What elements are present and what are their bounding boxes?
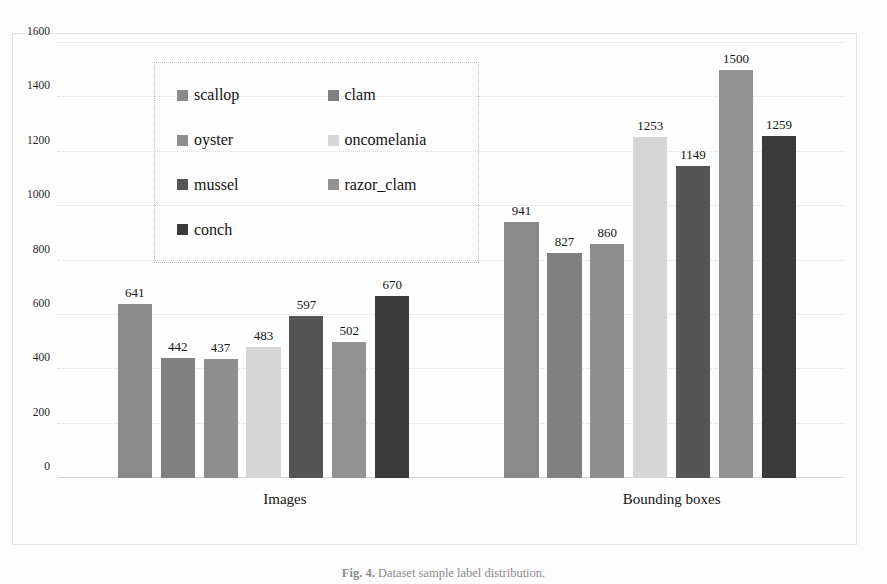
bar-rect [375, 296, 409, 478]
bar-oyster-bounding-boxes[interactable]: 860 [590, 43, 624, 478]
legend-item-label: oyster [194, 131, 233, 149]
bar-value-label: 597 [297, 297, 317, 313]
bar-oncomelania-bounding-boxes[interactable]: 1253 [633, 43, 667, 478]
legend-swatch-icon [177, 179, 188, 190]
y-tick-label: 1000 [27, 188, 50, 200]
bar-value-label: 941 [512, 203, 532, 219]
y-tick-label: 600 [33, 297, 50, 309]
bar-razor_clam-bounding-boxes[interactable]: 1500 [719, 43, 753, 478]
legend-swatch-icon [328, 90, 339, 101]
bar-scallop-images[interactable]: 641 [118, 43, 152, 478]
bar-rect [204, 359, 238, 478]
bar-value-label: 483 [254, 328, 274, 344]
bar-value-label: 670 [382, 277, 402, 293]
legend-swatch-icon [177, 224, 188, 235]
group-label-images: Images [118, 491, 452, 508]
bar-value-label: 437 [211, 340, 231, 356]
bar-value-label: 502 [340, 323, 360, 339]
y-tick-label: 800 [33, 243, 50, 255]
bar-value-label: 442 [168, 339, 188, 355]
legend-item-label: conch [194, 221, 232, 239]
bar-clam-bounding-boxes[interactable]: 827 [547, 43, 581, 478]
bar-value-label: 1253 [637, 118, 663, 134]
bar-value-label: 641 [125, 285, 145, 301]
bar-rect [289, 316, 323, 478]
y-tick-label: 400 [33, 351, 50, 363]
legend-item-label: oncomelania [345, 131, 427, 149]
bar-scallop-bounding-boxes[interactable]: 941 [504, 43, 538, 478]
y-tick-label: 0 [44, 460, 50, 472]
bar-rect [246, 347, 280, 478]
legend-item-oncomelania[interactable]: oncomelania [328, 118, 479, 163]
figure-caption: Fig. 4. Dataset sample label distributio… [0, 566, 887, 581]
bar-mussel-bounding-boxes[interactable]: 1149 [676, 43, 710, 478]
caption-label: Fig. 4. [342, 566, 375, 580]
legend-item-label: mussel [194, 176, 238, 194]
bar-rect [633, 137, 667, 478]
bar-rect [762, 136, 796, 478]
legend-item-conch[interactable]: conch [177, 207, 328, 252]
y-tick-label: 200 [33, 406, 50, 418]
group-label-bounding-boxes: Bounding boxes [504, 491, 838, 508]
bar-value-label: 860 [598, 225, 618, 241]
chart-legend: scallopclamoysteroncomelaniamusselrazor_… [154, 62, 479, 263]
legend-item-clam[interactable]: clam [328, 73, 479, 118]
legend-item-oyster[interactable]: oyster [177, 118, 328, 163]
legend-swatch-icon [328, 179, 339, 190]
bar-rect [719, 70, 753, 478]
bar-value-label: 1149 [680, 147, 706, 163]
bar-rect [332, 342, 366, 478]
legend-swatch-icon [328, 135, 339, 146]
bar-rect [590, 244, 624, 478]
legend-item-label: clam [345, 86, 376, 104]
bar-value-label: 827 [555, 234, 575, 250]
legend-grid: scallopclamoysteroncomelaniamusselrazor_… [155, 63, 478, 262]
bar-rect [118, 304, 152, 478]
caption-text: Dataset sample label distribution. [378, 566, 545, 580]
figure-container: 16001400120010008006004002000 6414424374… [0, 0, 887, 584]
y-tick-label: 1400 [27, 79, 50, 91]
legend-item-mussel[interactable]: mussel [177, 163, 328, 208]
legend-item-scallop[interactable]: scallop [177, 73, 328, 118]
y-tick-label: 1600 [27, 25, 50, 37]
legend-item-razor_clam[interactable]: razor_clam [328, 163, 479, 208]
bar-value-label: 1259 [766, 117, 792, 133]
legend-item-label: scallop [194, 86, 239, 104]
bar-conch-bounding-boxes[interactable]: 1259 [762, 43, 796, 478]
bar-rect [504, 222, 538, 478]
legend-swatch-icon [177, 135, 188, 146]
plot-area: 16001400120010008006004002000 6414424374… [58, 43, 844, 478]
bar-rect [547, 253, 581, 478]
y-tick-label: 1200 [27, 134, 50, 146]
bar-value-label: 1500 [723, 51, 749, 67]
chart-frame: 16001400120010008006004002000 6414424374… [12, 33, 857, 545]
bar-rect [161, 358, 195, 478]
bar-rect [676, 166, 710, 478]
legend-item-label: razor_clam [345, 176, 417, 194]
legend-swatch-icon [177, 90, 188, 101]
